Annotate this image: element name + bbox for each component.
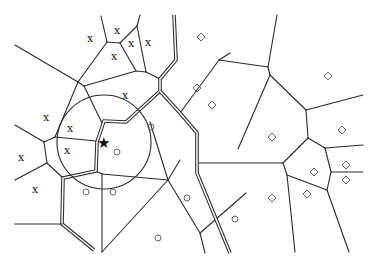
x-point: x [64,144,71,157]
decision-boundary [15,15,230,253]
x-point: x [122,89,129,102]
class-x-points: x x x x x x x x x x x [18,24,152,196]
diamond-point [342,176,350,184]
x-point: x [87,32,94,45]
x-point: x [18,151,25,164]
diamond-point [338,126,346,134]
diamond-point [303,190,311,198]
diamond-point [268,133,276,141]
x-point: x [32,183,39,196]
x-point: x [67,122,74,135]
x-point: x [145,36,152,49]
voronoi-diagram: x x x x x x x x x x x ★ [0,0,376,262]
query-star-icon: ★ [97,134,110,152]
circle-point [110,189,116,195]
x-point: x [128,37,135,50]
circle-point [232,216,238,222]
circle-point [83,189,89,195]
diamond-point [197,33,205,41]
circle-point [155,235,161,241]
class-diamond-points [193,33,350,202]
diamond-point [324,72,332,80]
diamond-point [268,194,276,202]
circle-point [184,195,190,201]
x-point: x [111,50,118,63]
x-point: x [43,111,50,124]
diamond-point [310,168,318,176]
diamond-point [208,101,216,109]
circle-point [114,149,120,155]
diamond-point [342,161,350,169]
x-point: x [114,24,121,37]
